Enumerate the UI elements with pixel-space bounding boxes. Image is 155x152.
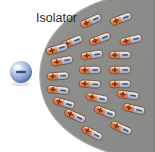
dipole [47, 72, 69, 81]
dipole-plus-sign [82, 83, 88, 85]
dipole [79, 66, 101, 74]
isolator-polarization-diagram: Isolator [0, 0, 155, 152]
dipole [79, 80, 101, 89]
dipole-minus-sign [122, 54, 128, 56]
dipole-minus-sign [122, 69, 128, 71]
dipole-gloss [110, 81, 129, 83]
isolator-label: Isolator [36, 11, 77, 25]
charge-specular-highlight [13, 65, 21, 71]
dipole-plus-sign [112, 69, 118, 71]
dipole [109, 51, 131, 59]
dipole-plus-sign [112, 83, 118, 85]
dipole-gloss [80, 67, 99, 69]
dipole [109, 80, 131, 88]
dipole-minus-sign [92, 69, 98, 71]
dipole-gloss [110, 67, 129, 69]
dipole-minus-sign [92, 83, 98, 85]
negative-charge-group [10, 61, 32, 86]
dipole-plus-sign [112, 54, 118, 56]
figure-canvas: Isolator [0, 0, 155, 152]
dipole-gloss [110, 52, 129, 54]
dipole-plus-sign [50, 75, 56, 77]
dipole [109, 66, 131, 74]
charge-minus-sign [16, 71, 26, 74]
dipole-minus-sign [122, 83, 128, 85]
dipole-minus-sign [60, 75, 66, 77]
dipole-plus-sign [82, 69, 88, 71]
